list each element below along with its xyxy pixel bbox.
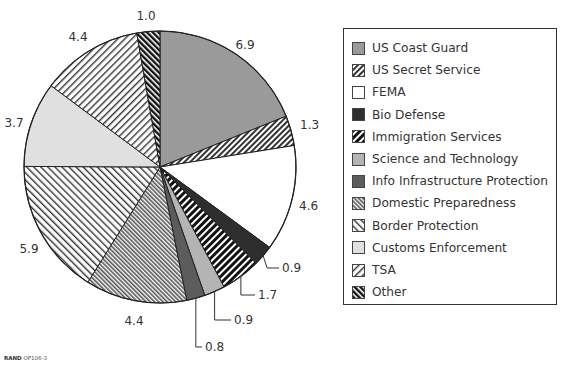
legend-label: TSA: [372, 263, 396, 277]
pie-slices: [24, 31, 296, 303]
legend-item: Science and Technology: [352, 149, 518, 169]
leader-line: [215, 292, 231, 320]
leader-line: [241, 276, 255, 295]
legend-label: FEMA: [372, 85, 406, 99]
slice-value-label: 5.9: [19, 242, 38, 256]
legend-item: Domestic Preparedness: [352, 193, 516, 213]
legend-item: Info Infrastructure Protection: [352, 171, 548, 191]
legend-label: US Secret Service: [372, 63, 480, 77]
credit-org: RAND: [4, 355, 22, 361]
legend-label: Customs Enforcement: [372, 241, 507, 255]
legend-label: Domestic Preparedness: [372, 196, 516, 210]
legend-swatch-icon: [352, 175, 365, 188]
legend-label: Science and Technology: [372, 152, 518, 166]
legend-label: Bio Defense: [372, 108, 445, 122]
legend-swatch-icon: [352, 86, 365, 99]
legend-item: Other: [352, 282, 407, 302]
legend-swatch-icon: [352, 219, 365, 232]
legend-label: Other: [372, 285, 407, 299]
slice-value-label: 1.7: [258, 288, 277, 302]
slice-value-label: 3.7: [4, 116, 23, 130]
legend-label: Border Protection: [372, 219, 478, 233]
legend-item: Bio Defense: [352, 105, 445, 125]
legend-swatch-icon: [352, 197, 365, 210]
slice-value-label: 1.0: [136, 9, 155, 23]
legend-swatch-icon: [352, 108, 365, 121]
legend-item: FEMA: [352, 82, 406, 102]
slice-value-label: 0.9: [234, 313, 253, 327]
legend-item: Border Protection: [352, 216, 478, 236]
legend-item: US Coast Guard: [352, 38, 468, 58]
credit-code: OP106-3: [23, 355, 47, 361]
legend-label: Immigration Services: [372, 130, 502, 144]
legend-swatch-icon: [352, 42, 365, 55]
slice-value-label: 0.9: [282, 261, 301, 275]
slice-value-label: 4.4: [124, 314, 143, 328]
legend-item: US Secret Service: [352, 60, 480, 80]
legend-swatch-icon: [352, 286, 365, 299]
legend-item: Customs Enforcement: [352, 238, 507, 258]
legend-label: Info Infrastructure Protection: [372, 174, 548, 188]
slice-value-label: 4.6: [299, 199, 318, 213]
legend-swatch-icon: [352, 264, 365, 277]
slice-value-label: 6.9: [235, 38, 254, 52]
legend-swatch-icon: [352, 241, 365, 254]
legend-item: Immigration Services: [352, 127, 502, 147]
leader-line: [263, 256, 279, 268]
slice-value-label: 0.8: [205, 340, 224, 354]
slice-value-label: 4.4: [68, 30, 87, 44]
legend-label: US Coast Guard: [372, 41, 468, 55]
legend-swatch-icon: [352, 153, 365, 166]
figure-credit: RAND OP106-3: [4, 355, 47, 361]
leader-line: [196, 298, 202, 347]
legend-swatch-icon: [352, 64, 365, 77]
legend: US Coast GuardUS Secret ServiceFEMABio D…: [343, 28, 557, 305]
slice-value-label: 1.3: [300, 118, 319, 132]
legend-swatch-icon: [352, 130, 365, 143]
legend-item: TSA: [352, 260, 396, 280]
